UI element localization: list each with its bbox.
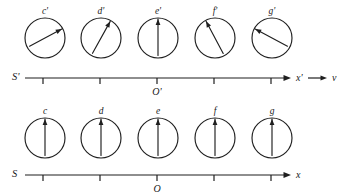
clock-primed-0: c'	[25, 6, 65, 58]
axis-primed: S'x'O'v	[12, 71, 337, 97]
clock-label: g	[270, 106, 275, 116]
clock-label: g'	[269, 6, 277, 16]
clock-label: f	[214, 106, 218, 116]
clock-label: e'	[155, 6, 162, 16]
clock-unprimed-1: d	[81, 106, 121, 158]
frame-label: S'	[12, 71, 20, 82]
clock-unprimed-4: g	[252, 106, 292, 158]
clock-primed-4: g'	[252, 6, 292, 58]
clock-hand-arrowhead	[99, 119, 104, 125]
physics-figure: c'd'e'f'g'S'x'O'v cdefgSxO	[0, 0, 347, 196]
frame-unprimed: cdefgSxO	[12, 106, 301, 194]
clock-primed-3: f'	[195, 6, 235, 58]
clock-unprimed-3: f	[195, 106, 235, 158]
clock-hand-arrowhead	[105, 21, 110, 27]
clock-primed-1: d'	[81, 6, 121, 58]
axis-arrowhead	[284, 75, 292, 81]
clock-hand-arrowhead	[43, 119, 48, 125]
clock-hand-arrowhead	[213, 119, 218, 125]
origin-label: O'	[152, 86, 162, 97]
clock-unprimed-2: e	[138, 106, 178, 158]
clock-unprimed-0: c	[25, 106, 65, 158]
axis-label: x	[295, 169, 301, 180]
clock-primed-2: e'	[138, 6, 178, 58]
axis-unprimed: SxO	[12, 168, 301, 194]
clock-hand-arrowhead	[156, 19, 161, 25]
axis-label: x'	[295, 72, 303, 83]
figure-canvas: c'd'e'f'g'S'x'O'v cdefgSxO	[0, 0, 347, 196]
clock-label: d'	[98, 6, 106, 16]
clock-label: e	[156, 106, 160, 116]
clock-hand-arrowhead	[55, 29, 61, 34]
clock-label: c'	[42, 6, 49, 16]
clock-hand-arrowhead	[270, 119, 275, 125]
origin-label: O	[153, 183, 160, 194]
axis-arrowhead	[284, 172, 292, 178]
clock-label: d	[99, 106, 104, 116]
frame-primed: c'd'e'f'g'S'x'O'v	[12, 6, 337, 97]
clock-label: c	[43, 106, 48, 116]
clock-hand-arrowhead	[255, 29, 261, 34]
clock-hand-arrowhead	[156, 119, 161, 125]
velocity-label: v	[332, 72, 337, 83]
clock-hand-arrowhead	[206, 21, 211, 27]
clock-label: f'	[213, 6, 219, 16]
velocity-arrowhead	[321, 75, 328, 80]
frame-label: S	[12, 168, 18, 179]
